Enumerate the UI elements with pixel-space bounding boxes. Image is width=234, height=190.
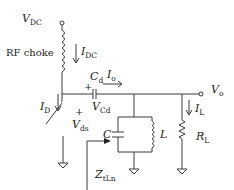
idc-arrow-icon xyxy=(73,44,79,63)
il-arrow-icon xyxy=(186,100,192,115)
cd-capacitor xyxy=(93,89,96,99)
io-label: Io xyxy=(106,68,116,83)
vo-terminal xyxy=(199,92,203,96)
circuit-diagram: VDC RF choke IDC + Cd Io Vo xyxy=(0,0,234,190)
id-label: ID xyxy=(39,100,50,115)
vds-plus-sign: + xyxy=(75,106,83,117)
load-resistor xyxy=(179,94,185,169)
vdc-terminal xyxy=(60,21,64,25)
vdc-label: VDC xyxy=(22,12,42,27)
id-arrow-icon xyxy=(55,94,61,111)
ground-icon xyxy=(58,163,68,168)
idc-label: IDC xyxy=(80,45,97,60)
rf-choke-inductor xyxy=(62,25,65,94)
resonator-capacitor xyxy=(112,132,124,137)
resonator-inductor xyxy=(152,121,154,148)
vo-label: Vo xyxy=(211,83,224,98)
rf-choke-label: RF choke xyxy=(6,47,54,58)
vds-label: Vds xyxy=(72,118,89,133)
rl-label: RL xyxy=(195,130,209,145)
switch xyxy=(46,94,63,163)
ground-icon xyxy=(129,169,139,174)
il-label: IL xyxy=(194,102,204,117)
cd-label: Cd xyxy=(90,70,103,85)
ground-icon xyxy=(177,169,187,174)
l-label: L xyxy=(159,128,167,141)
vcd-label: VCd xyxy=(92,100,111,115)
zt-label: ZtLn xyxy=(94,168,116,183)
